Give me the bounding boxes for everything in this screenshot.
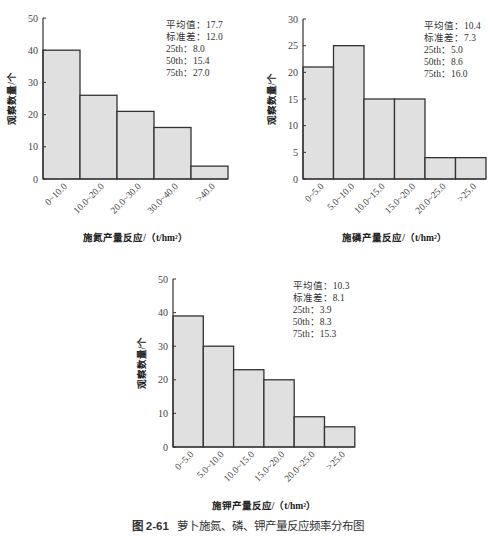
x-category-label: 20.0~25.0 <box>413 181 447 215</box>
x-category-label: 10.0~20.0 <box>72 181 106 215</box>
x-category-label: 10.0~15.0 <box>352 181 386 215</box>
figure-canvas: 010203040500~10.010.0~20.020.0~30.030.0~… <box>0 0 496 537</box>
x-category-label: 10.0~15.0 <box>222 449 256 483</box>
potassium-histogram: 010203040500~5.05.0~10.010.0~15.015.0~20… <box>136 274 355 512</box>
y-tick-label: 20 <box>288 67 298 78</box>
histogram-bar <box>456 158 487 179</box>
y-tick-label: 30 <box>28 77 38 88</box>
stats-line: 平均值：10.4 <box>424 20 481 31</box>
y-tick-label: 50 <box>158 274 168 285</box>
y-tick-label: 0 <box>33 174 38 185</box>
x-category-label: >25.0 <box>456 181 479 204</box>
x-axis-label: 施氮产量反应/（t/hm²） <box>83 232 188 243</box>
histogram-bar <box>294 417 324 447</box>
stats-line: 25th：8.0 <box>166 44 205 54</box>
x-category-label: 15.0~20.0 <box>383 181 417 215</box>
histogram-bar <box>364 99 395 179</box>
stats-line: 50th：15.4 <box>166 56 210 66</box>
histogram-bar <box>203 346 233 447</box>
y-tick-label: 15 <box>288 94 298 105</box>
x-category-label: 0~5.0 <box>173 449 196 472</box>
y-tick-label: 20 <box>158 374 168 385</box>
y-tick-label: 0 <box>163 442 168 453</box>
histogram-bar <box>334 46 365 179</box>
histogram-bar <box>303 67 334 179</box>
y-tick-label: 40 <box>28 45 38 56</box>
x-category-label: 30.0~40.0 <box>146 181 180 215</box>
y-tick-label: 25 <box>288 40 298 51</box>
y-tick-label: 50 <box>28 13 38 24</box>
x-category-label: 5.0~10.0 <box>195 449 226 480</box>
stats-line: 25th：5.0 <box>424 45 463 55</box>
histogram-bar <box>80 95 117 179</box>
figure-caption: 图 2-61 萝卜施氮、磷、钾产量反应频率分布图 <box>0 517 496 533</box>
y-axis-label: 观察数量/个 <box>6 72 17 126</box>
y-tick-label: 30 <box>158 341 168 352</box>
y-tick-label: 10 <box>28 141 38 152</box>
stats-line: 标准差：12.0 <box>166 31 223 42</box>
stats-line: 标准差：7.3 <box>424 32 476 43</box>
histogram-bar <box>425 158 456 179</box>
y-tick-label: 5 <box>293 147 298 158</box>
x-category-label: >25.0 <box>324 449 347 472</box>
stats-line: 75th：27.0 <box>166 68 210 78</box>
y-tick-label: 20 <box>28 109 38 120</box>
stats-line: 75th：16.0 <box>424 69 468 79</box>
histogram-bar <box>117 111 154 179</box>
histogram-bar <box>234 370 264 447</box>
caption-text: 萝卜施氮、磷、钾产量反应频率分布图 <box>177 520 364 532</box>
stats-line: 平均值：17.7 <box>166 19 223 30</box>
stats-line: 50th：8.3 <box>293 317 332 327</box>
y-tick-label: 10 <box>158 408 168 419</box>
x-axis-label: 施钾产量反应/（t/hm²） <box>212 500 317 511</box>
x-category-label: 15.0~20.0 <box>252 449 286 483</box>
x-category-label: 0~10.0 <box>43 181 69 207</box>
y-axis-label: 观察数量/个 <box>136 337 147 391</box>
nitrogen-histogram: 010203040500~10.010.0~20.020.0~30.030.0~… <box>6 13 228 244</box>
phosphorus-histogram: 0510152025300~5.05.0~10.010.0~15.015.0~2… <box>266 14 486 244</box>
histogram-bar <box>173 316 203 447</box>
x-category-label: 0~5.0 <box>303 181 326 204</box>
caption-number: 图 2-61 <box>132 520 169 532</box>
histogram-bar <box>395 99 426 179</box>
histogram-bar <box>43 50 80 179</box>
histogram-bar <box>191 166 228 179</box>
stats-line: 25th：3.9 <box>293 305 332 315</box>
y-tick-label: 40 <box>158 307 168 318</box>
x-category-label: >40.0 <box>194 181 217 204</box>
histogram-bar <box>264 380 294 447</box>
stats-line: 平均值：10.3 <box>293 280 350 291</box>
y-tick-label: 0 <box>293 174 298 185</box>
y-tick-label: 10 <box>288 120 298 131</box>
histogram-bar <box>154 127 191 179</box>
stats-line: 75th：15.3 <box>293 329 337 339</box>
x-category-label: 20.0~25.0 <box>283 449 317 483</box>
x-category-label: 20.0~30.0 <box>109 181 143 215</box>
x-axis-label: 施磷产量反应/（t/hm²） <box>342 232 447 243</box>
histogram-bar <box>325 427 355 447</box>
x-category-label: 5.0~10.0 <box>325 181 356 212</box>
stats-line: 50th：8.6 <box>424 57 463 67</box>
y-tick-label: 30 <box>288 14 298 25</box>
stats-line: 标准差：8.1 <box>293 292 345 303</box>
y-axis-label: 观察数量/个 <box>266 73 277 127</box>
